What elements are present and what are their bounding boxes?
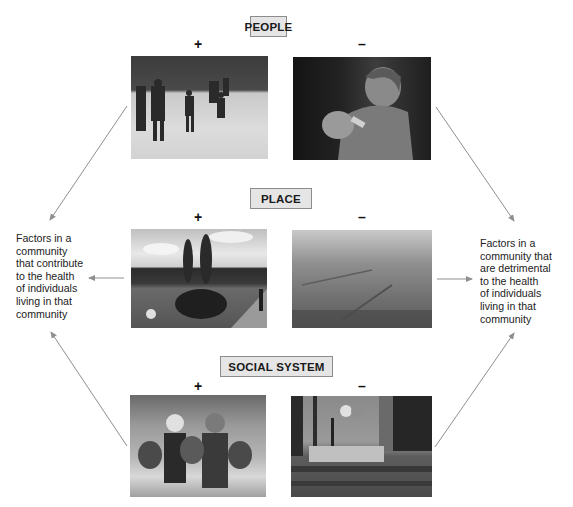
text-line: Factors in a bbox=[16, 232, 83, 245]
positive-sign: + bbox=[191, 37, 205, 51]
category-label-people: PEOPLE bbox=[250, 16, 287, 37]
positive-sign: + bbox=[191, 210, 205, 224]
text-line: to the health bbox=[16, 270, 83, 283]
text-line: living in that bbox=[480, 300, 552, 313]
text-line: Factors in a bbox=[480, 237, 552, 250]
text-line: living in that bbox=[16, 295, 83, 308]
positive-factors-text: Factors in a community that contribute t… bbox=[16, 232, 83, 320]
text-line: of individuals bbox=[480, 287, 552, 300]
text-line: community bbox=[16, 308, 83, 321]
text-line: of individuals bbox=[16, 282, 83, 295]
negative-sign: – bbox=[355, 37, 369, 51]
text-line: community bbox=[480, 313, 552, 326]
negative-sign: – bbox=[355, 210, 369, 224]
arrow-social-negative-to-right bbox=[435, 333, 514, 447]
text-line: that contribute bbox=[16, 257, 83, 270]
text-line: community bbox=[16, 245, 83, 258]
text-line: to the health bbox=[480, 275, 552, 288]
children-at-playground-photo bbox=[130, 395, 266, 497]
arrow-social-positive-to-left bbox=[51, 332, 127, 446]
mother-bottle-feeding-baby-photo bbox=[293, 57, 431, 160]
category-label-social-system: SOCIAL SYSTEM bbox=[220, 356, 333, 377]
text-line: community that bbox=[480, 250, 552, 263]
detrimental-factors-text: Factors in a community that are detrimen… bbox=[480, 237, 552, 325]
green-park-with-trees-photo bbox=[131, 229, 267, 328]
negative-sign: – bbox=[355, 379, 369, 393]
category-label-place: PLACE bbox=[250, 188, 312, 209]
arrow-people-negative-to-right bbox=[436, 107, 514, 221]
text-line: are detrimental bbox=[480, 262, 552, 275]
children-ice-skating-photo bbox=[131, 56, 268, 159]
smog-polluted-city-photo bbox=[292, 230, 432, 328]
positive-sign: + bbox=[191, 379, 205, 393]
empty-urban-plaza-photo bbox=[291, 396, 432, 497]
arrow-people-positive-to-left bbox=[50, 106, 127, 220]
